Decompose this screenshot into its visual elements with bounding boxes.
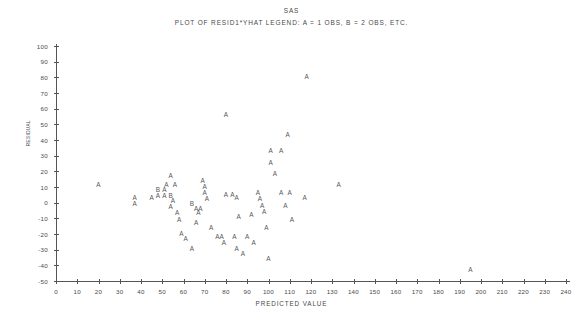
data-point-marker: A (195, 210, 201, 216)
data-point-marker: A (234, 246, 240, 252)
y-tick-mark (54, 109, 59, 110)
data-point-marker: A (240, 251, 246, 257)
x-axis-line (56, 281, 570, 282)
y-tick-mark (54, 218, 59, 219)
x-tick-mark (141, 279, 142, 284)
y-tick-label: 100 (26, 43, 48, 50)
data-point-marker: A (268, 148, 274, 154)
data-point-marker: A (96, 182, 102, 188)
x-tick-mark (354, 279, 355, 284)
x-axis-title: PREDICTED VALUE (0, 300, 583, 307)
page-title: SAS (0, 7, 583, 14)
x-tick-mark (396, 279, 397, 284)
y-tick-label: 80 (26, 74, 48, 81)
x-tick-mark (205, 279, 206, 284)
data-point-marker: A (336, 182, 342, 188)
y-tick-mark (54, 203, 59, 204)
data-point-marker: A (164, 182, 170, 188)
data-point-marker: A (161, 193, 167, 199)
data-point-marker: A (272, 171, 278, 177)
x-tick-mark (524, 279, 525, 284)
y-tick-label: 50 (26, 121, 48, 128)
x-tick-mark (502, 279, 503, 284)
y-tick-label: 20 (26, 168, 48, 175)
y-tick-mark (54, 93, 59, 94)
data-point-marker: A (236, 214, 242, 220)
x-tick-mark (417, 279, 418, 284)
data-point-marker: A (261, 209, 267, 215)
data-point-marker: A (168, 204, 174, 210)
x-tick-mark (311, 279, 312, 284)
y-tick-mark (54, 156, 59, 157)
x-tick-mark (247, 279, 248, 284)
y-tick-label: 10 (26, 184, 48, 191)
y-tick-label: -10 (26, 215, 48, 222)
x-tick-mark (481, 279, 482, 284)
y-axis-line (56, 44, 57, 282)
x-tick-label: 240 (554, 288, 578, 295)
y-tick-label: -50 (26, 278, 48, 285)
data-point-marker: A (223, 112, 229, 118)
y-tick-mark (54, 234, 59, 235)
y-tick-mark (54, 171, 59, 172)
data-point-marker: A (204, 196, 210, 202)
y-tick-mark (54, 77, 59, 78)
y-tick-label: -40 (26, 262, 48, 269)
data-point-marker: A (193, 220, 199, 226)
data-point-marker: A (289, 217, 295, 223)
x-tick-mark (184, 279, 185, 284)
data-point-marker: A (189, 246, 195, 252)
y-tick-label: -20 (26, 231, 48, 238)
data-point-marker: A (223, 192, 229, 198)
x-tick-mark (99, 279, 100, 284)
y-tick-mark (54, 62, 59, 63)
data-point-marker: A (132, 201, 138, 207)
data-point-marker: A (251, 240, 257, 246)
data-point-marker: A (208, 225, 214, 231)
data-point-marker: A (278, 190, 284, 196)
y-tick-label: 70 (26, 90, 48, 97)
x-tick-mark (120, 279, 121, 284)
data-point-marker: A (287, 190, 293, 196)
sas-plot-canvas: SAS PLOT OF RESID1*YHAT LEGEND: A = 1 OB… (0, 0, 583, 322)
x-tick-mark (226, 279, 227, 284)
data-point-marker: A (467, 267, 473, 273)
data-point-marker: A (232, 234, 238, 240)
data-point-marker: A (234, 195, 240, 201)
data-point-marker: A (249, 212, 255, 218)
y-tick-label: 60 (26, 105, 48, 112)
data-point-marker: A (304, 74, 310, 80)
data-point-marker: A (302, 195, 308, 201)
x-tick-mark (545, 279, 546, 284)
data-point-marker: A (221, 240, 227, 246)
data-point-marker: A (176, 217, 182, 223)
y-tick-mark (54, 265, 59, 266)
data-point-marker: A (278, 148, 284, 154)
y-tick-mark (54, 140, 59, 141)
x-tick-mark (290, 279, 291, 284)
x-tick-mark (332, 279, 333, 284)
data-point-marker: A (183, 236, 189, 242)
y-tick-mark (54, 46, 59, 47)
data-point-marker: A (168, 173, 174, 179)
data-point-marker: A (172, 182, 178, 188)
x-tick-mark (375, 279, 376, 284)
x-tick-mark (566, 279, 567, 284)
x-tick-mark (56, 279, 57, 284)
y-tick-label: 0 (26, 199, 48, 206)
y-tick-label: -30 (26, 246, 48, 253)
y-tick-label: 30 (26, 152, 48, 159)
y-tick-mark (54, 250, 59, 251)
plot-subtitle-legend: PLOT OF RESID1*YHAT LEGEND: A = 1 OBS, B… (0, 19, 583, 26)
x-tick-mark (269, 279, 270, 284)
x-tick-mark (77, 279, 78, 284)
y-tick-mark (54, 124, 59, 125)
data-point-marker: A (155, 193, 161, 199)
data-point-marker: A (268, 160, 274, 166)
x-tick-mark (162, 279, 163, 284)
x-tick-mark (439, 279, 440, 284)
y-tick-label: 40 (26, 137, 48, 144)
data-point-marker: A (266, 256, 272, 262)
data-point-marker: A (283, 203, 289, 209)
data-point-marker: A (263, 225, 269, 231)
